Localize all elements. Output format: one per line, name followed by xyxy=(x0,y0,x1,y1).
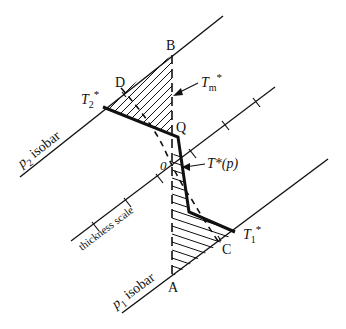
label-p1-isobar: p1 isobar xyxy=(108,269,160,314)
tm-arrow xyxy=(173,83,198,96)
label-Tm-star: Tm* xyxy=(201,71,222,93)
label-Q: Q xyxy=(176,120,186,135)
label-T2-star: T2* xyxy=(81,88,99,110)
label-B: B xyxy=(166,38,175,53)
lower-hatched-area xyxy=(160,150,250,300)
label-Tp: T*(p) xyxy=(207,156,238,172)
label-O: 0 xyxy=(160,158,167,173)
label-C: C xyxy=(222,242,231,257)
label-thickness-scale: thickness scale xyxy=(76,203,136,252)
thickness-diagram: B D Q 0 C A T2* T1* Tm* T*(p) p2 isobar … xyxy=(0,0,346,329)
label-D: D xyxy=(115,75,125,90)
label-T1-star: T1* xyxy=(243,223,261,245)
p1-isobar-line xyxy=(122,159,328,313)
label-p2-isobar: p2 isobar xyxy=(14,128,65,174)
label-A: A xyxy=(168,280,179,295)
tp-arrow xyxy=(182,163,205,171)
